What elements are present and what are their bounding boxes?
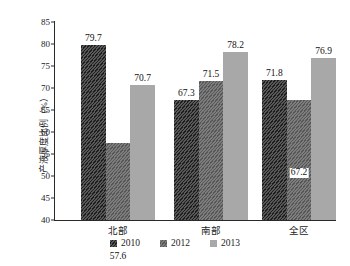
bar[interactable]: 67.2 xyxy=(287,100,312,220)
chart-legend: 201020122013 xyxy=(0,238,350,248)
bar-value-label: 79.7 xyxy=(85,34,102,44)
legend-item[interactable]: 2013 xyxy=(210,238,240,248)
y-tick-mark xyxy=(51,198,55,199)
legend-item[interactable]: 2012 xyxy=(160,238,190,248)
y-tick-label: 55 xyxy=(4,150,55,159)
bar[interactable]: 71.5 xyxy=(199,81,224,220)
y-tick-label: 65 xyxy=(4,106,55,115)
y-tick-mark xyxy=(51,154,55,155)
bar-value-label: 71.5 xyxy=(203,70,220,80)
bar[interactable]: 76.9 xyxy=(311,58,336,220)
y-tick-mark xyxy=(51,44,55,45)
bars: 67.371.578.2 xyxy=(174,22,248,220)
y-tick-label: 85 xyxy=(4,18,55,27)
bars: 71.867.276.9 xyxy=(262,22,336,220)
bar-chart: 产液厚度比例（%） 85807570656055504540 79.757.67… xyxy=(0,0,350,266)
legend-swatch-icon xyxy=(110,240,117,247)
y-tick-label: 45 xyxy=(4,194,55,203)
legend-swatch-icon xyxy=(210,240,217,247)
legend-label: 2010 xyxy=(121,238,140,248)
bar-value-label: 67.3 xyxy=(178,89,195,99)
y-tick-mark xyxy=(51,176,55,177)
bars: 79.757.670.7 xyxy=(81,22,155,220)
y-tick-mark xyxy=(51,88,55,89)
y-tick-label: 80 xyxy=(4,40,55,49)
figure-caption xyxy=(0,258,350,266)
y-tick-label: 50 xyxy=(4,172,55,181)
y-tick-mark xyxy=(51,132,55,133)
legend-swatch-icon xyxy=(160,240,167,247)
y-tick-mark xyxy=(51,110,55,111)
bar-value-label: 70.7 xyxy=(134,74,151,84)
y-tick-label: 60 xyxy=(4,128,55,137)
bar-group: 79.757.670.7 xyxy=(81,22,155,220)
bar-value-label: 78.2 xyxy=(227,41,244,51)
x-axis-line xyxy=(54,220,336,221)
legend-item[interactable]: 2010 xyxy=(110,238,140,248)
x-tick-label: 全区 xyxy=(262,223,336,237)
x-tick-label: 北部 xyxy=(81,223,155,237)
y-tick-label: 40 xyxy=(4,216,55,225)
legend-label: 2012 xyxy=(171,238,190,248)
bar[interactable]: 70.7 xyxy=(130,85,155,220)
bar-value-label: 71.8 xyxy=(266,69,283,79)
bar[interactable]: 67.3 xyxy=(174,100,199,220)
plot-area: 85807570656055504540 79.757.670.767.371.… xyxy=(55,22,336,220)
y-tick-mark xyxy=(51,22,55,23)
y-tick-label: 75 xyxy=(4,62,55,71)
bar-value-label: 67.2 xyxy=(290,168,309,178)
y-tick-mark xyxy=(51,66,55,67)
bar[interactable]: 78.2 xyxy=(223,52,248,220)
x-tick-label: 南部 xyxy=(174,223,248,237)
y-tick-label: 70 xyxy=(4,84,55,93)
y-tick-mark xyxy=(51,220,55,221)
legend-label: 2013 xyxy=(221,238,240,248)
bar[interactable]: 71.8 xyxy=(262,80,287,220)
bar[interactable]: 57.6 xyxy=(106,143,131,220)
bar-group: 67.371.578.2 xyxy=(174,22,248,220)
bar-value-label: 76.9 xyxy=(315,47,332,57)
bar-group: 71.867.276.9 xyxy=(262,22,336,220)
bar[interactable]: 79.7 xyxy=(81,45,106,220)
